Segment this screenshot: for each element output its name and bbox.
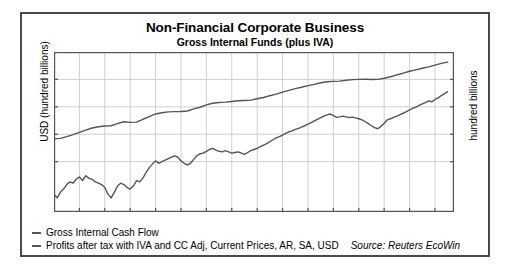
- chart-legend: Gross Internal Cash Flow Profits after t…: [32, 226, 484, 252]
- legend-item-cash-flow: Gross Internal Cash Flow: [32, 226, 484, 239]
- plot-area: 1616884422110076788082848688909294969800…: [54, 52, 454, 212]
- source-attribution: Source: Reuters EcoWin: [351, 240, 460, 251]
- legend-label: Gross Internal Cash Flow: [46, 227, 159, 238]
- y-axis-label-right: hundred billions: [468, 46, 479, 166]
- legend-line-icon: [32, 232, 41, 234]
- chart-title: Non-Financial Corporate Business: [22, 20, 488, 35]
- chart-panel: Non-Financial Corporate Business Gross I…: [20, 12, 490, 257]
- legend-label: Profits after tax with IVA and CC Adj, C…: [46, 240, 339, 251]
- chart-subtitle: Gross Internal Funds (plus IVA): [22, 36, 488, 48]
- chart-svg: 1616884422110076788082848688909294969800…: [54, 52, 454, 212]
- legend-item-profits: Profits after tax with IVA and CC Adj, C…: [32, 239, 484, 252]
- legend-line-icon: [32, 245, 41, 247]
- y-axis-label-left: USD (hundred billions): [39, 22, 50, 162]
